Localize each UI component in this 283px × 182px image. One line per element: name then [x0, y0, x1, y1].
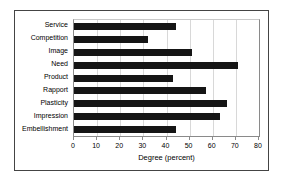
category-label: Rapport	[43, 86, 68, 94]
bars-layer	[74, 20, 259, 136]
x-axis-title: Degree (percent)	[73, 153, 260, 163]
x-axis-tick-label: 20	[115, 141, 123, 150]
bar-row	[74, 126, 259, 133]
x-axis-tick-label: 10	[92, 141, 100, 150]
bar	[74, 113, 220, 120]
bar	[74, 62, 238, 69]
bar-row	[74, 36, 259, 43]
bar-row	[74, 100, 259, 107]
bar-row	[74, 23, 259, 30]
category-label: Service	[45, 21, 68, 29]
x-axis-tick	[166, 137, 167, 140]
x-axis-tick	[142, 137, 143, 140]
x-axis-tick-labels: 01020304050607080	[73, 141, 260, 151]
bar-row	[74, 113, 259, 120]
category-axis: ServiceCompetitionImageNeedProductRappor…	[15, 19, 71, 137]
x-axis-tick	[119, 137, 120, 140]
x-axis-tick	[258, 137, 259, 140]
x-axis-tick	[235, 137, 236, 140]
category-label: Impression	[34, 112, 68, 120]
x-axis-tick	[212, 137, 213, 140]
x-axis-tick-label: 70	[231, 141, 239, 150]
bar	[74, 126, 176, 133]
bar-row	[74, 62, 259, 69]
x-axis-tick	[189, 137, 190, 140]
x-axis-tick-label: 50	[185, 141, 193, 150]
bar-row	[74, 75, 259, 82]
x-axis-tick	[73, 137, 74, 140]
category-label: Product	[44, 73, 68, 81]
bar	[74, 100, 227, 107]
x-axis-tick-label: 40	[162, 141, 170, 150]
bar	[74, 23, 176, 30]
category-label: Competition	[31, 34, 68, 42]
x-axis-tick-label: 0	[71, 141, 75, 150]
chart-figure: ServiceCompetitionImageNeedProductRappor…	[14, 10, 269, 171]
bar-row	[74, 87, 259, 94]
category-label: Need	[51, 60, 68, 68]
x-axis-tick-label: 60	[208, 141, 216, 150]
plot-area	[73, 19, 260, 137]
category-label: Plasticity	[40, 99, 68, 107]
bar	[74, 87, 206, 94]
x-axis-tick-label: 30	[138, 141, 146, 150]
bar	[74, 36, 148, 43]
bar	[74, 75, 173, 82]
x-axis-tick-label: 80	[254, 141, 262, 150]
x-axis-tick	[96, 137, 97, 140]
category-label: Image	[49, 47, 68, 55]
category-label: Embellishment	[22, 125, 68, 133]
bar-row	[74, 49, 259, 56]
bar	[74, 49, 192, 56]
